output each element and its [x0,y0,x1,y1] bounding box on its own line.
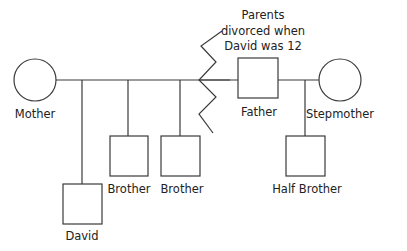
brother2-square [161,136,200,176]
mother-circle [14,59,56,101]
david-square [63,184,102,224]
father-label: Father [241,105,277,119]
mother-label: Mother [15,107,56,121]
brother2-label: Brother [160,182,203,196]
david-label: David [65,229,98,243]
brother1-square [110,136,148,176]
stepmother-label: Stepmother [306,107,374,121]
half-brother-square [286,136,325,176]
annotation-line3: David was 12 [224,39,302,53]
brother1-label: Brother [107,182,150,196]
annotation-line1: Parents [242,8,285,22]
stepmother-circle [319,59,361,101]
half-brother-label: Half Brother [272,182,342,196]
divorce-zigzag-icon [199,31,222,133]
father-square [238,58,278,98]
annotation-line2: divorced when [221,24,305,38]
genogram-diagram: Mother Father Stepmother Brother Brother… [0,0,407,251]
